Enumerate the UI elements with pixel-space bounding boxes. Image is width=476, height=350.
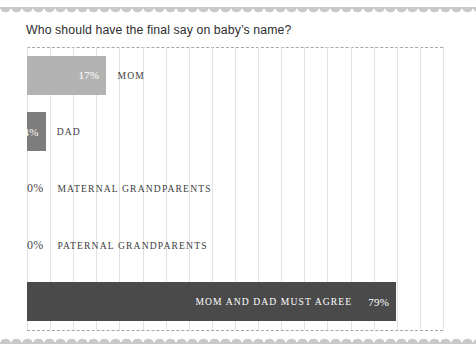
bar-value-label: 17% (78, 69, 106, 81)
bar-row: 17%MOM (27, 47, 443, 104)
gridline (443, 47, 444, 330)
bar-category-label: DAD (46, 126, 81, 137)
bar[interactable]: MOM AND DAD MUST AGREE79% (27, 282, 396, 321)
bar-category-label: MOM AND DAD MUST AGREE (195, 296, 368, 307)
bar-row: 0%PATERNAL GRANDPARENTS (27, 217, 443, 274)
bar[interactable]: 17% (27, 56, 106, 95)
chart-page: Who should have the final say on baby’s … (0, 0, 476, 350)
bar-rows: 17%MOM4%DAD0%MATERNAL GRANDPARENTS0%PATE… (27, 47, 443, 330)
bar-row: MOM AND DAD MUST AGREE79% (27, 273, 443, 330)
bar-value-label: 4% (23, 126, 45, 138)
scalloped-top-border-icon (0, 7, 476, 16)
bar-row: 4%DAD (27, 104, 443, 161)
plot-area: 17%MOM4%DAD0%MATERNAL GRANDPARENTS0%PATE… (27, 47, 443, 330)
bar-value-label: 0% (27, 181, 43, 196)
chart-title: Who should have the final say on baby’s … (26, 23, 291, 37)
scalloped-bottom-border-icon (0, 335, 476, 344)
bar-value-label: 0% (27, 238, 43, 253)
bar-category-label: MOM (106, 70, 144, 81)
bar-category-label: PATERNAL GRANDPARENTS (43, 240, 207, 251)
bar-row: 0%MATERNAL GRANDPARENTS (27, 160, 443, 217)
bar[interactable]: 4% (27, 112, 46, 151)
axis-bottom-rule (27, 330, 443, 331)
bar-value-label: 79% (368, 296, 396, 308)
bar-category-label: MATERNAL GRANDPARENTS (43, 183, 211, 194)
